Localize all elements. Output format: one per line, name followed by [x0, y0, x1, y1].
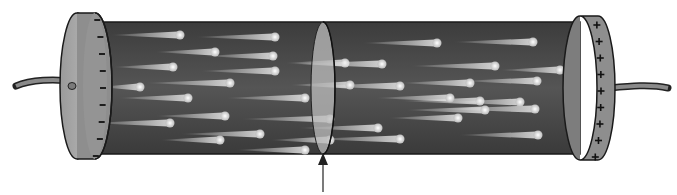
charge-particle: [491, 62, 500, 71]
charge-particle: [396, 135, 405, 144]
charge-particle: [301, 94, 310, 103]
charge-particle: [346, 81, 355, 90]
charge-particle: [169, 63, 178, 72]
charge-particle: [454, 114, 463, 123]
charge-particle: [516, 98, 525, 107]
charge-particle: [533, 77, 542, 86]
charge-particle: [226, 79, 235, 88]
charge-particle: [374, 124, 383, 133]
charge-particle: [481, 106, 490, 115]
charge-particle: [216, 136, 225, 145]
charge-particle: [301, 146, 310, 155]
charge-particle: [446, 94, 455, 103]
charge-particle: [176, 31, 185, 40]
charge-particle: [166, 119, 175, 128]
charge-particle: [271, 67, 280, 76]
charge-particle: [136, 83, 145, 92]
right-end-cap: [563, 16, 615, 161]
charge-particle: [433, 39, 442, 48]
charge-particle: [221, 112, 230, 121]
charge-particle: [271, 33, 280, 42]
charge-particle: [211, 48, 220, 57]
conductor-diagram: [0, 0, 677, 195]
charge-particle: [534, 131, 543, 140]
charge-particle: [531, 105, 540, 114]
charge-particle: [529, 38, 538, 47]
charge-particle: [466, 79, 475, 88]
cross-section-arrow: [318, 153, 328, 192]
charge-particle: [378, 60, 387, 69]
charge-particle: [184, 94, 193, 103]
charge-particle: [396, 82, 405, 91]
charge-particle: [269, 52, 278, 61]
charge-particle: [256, 130, 265, 139]
